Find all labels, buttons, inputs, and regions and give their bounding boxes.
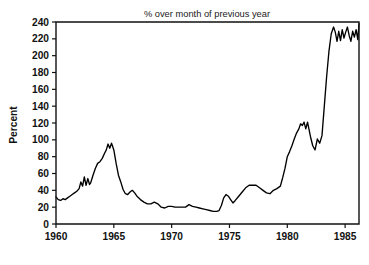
line-chart: % over month of previous year Percent 02… <box>0 0 369 265</box>
y-tick-label: 160 <box>32 84 49 95</box>
plot-area <box>56 22 359 224</box>
x-tick-label: 1975 <box>218 231 241 242</box>
y-tick-label: 200 <box>32 50 49 61</box>
y-tick-label: 240 <box>32 17 49 28</box>
y-tick-label: 140 <box>32 101 49 112</box>
chart-figure: % over month of previous year Percent 02… <box>0 0 369 265</box>
y-axis-title: Percent <box>8 106 19 144</box>
x-tick-label: 1980 <box>276 231 299 242</box>
y-tick-label: 40 <box>38 185 50 196</box>
x-tick-label: 1965 <box>102 231 125 242</box>
x-tick-label: 1985 <box>334 231 357 242</box>
y-tick-label: 60 <box>38 168 50 179</box>
y-tick-label: 100 <box>32 134 49 145</box>
y-tick-label: 80 <box>38 151 50 162</box>
y-tick-label: 220 <box>32 33 49 44</box>
chart-title: % over month of previous year <box>144 9 270 19</box>
y-tick-label: 120 <box>32 118 49 129</box>
x-tick-label: 1970 <box>160 231 183 242</box>
x-tick-label: 1960 <box>45 231 68 242</box>
y-tick-label: 180 <box>32 67 49 78</box>
y-tick-label: 20 <box>38 202 50 213</box>
y-tick-label: 0 <box>43 219 49 230</box>
